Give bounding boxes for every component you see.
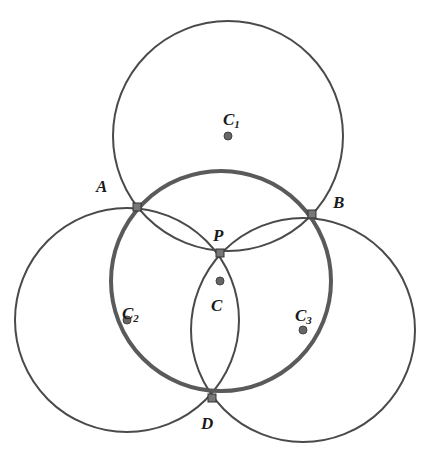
label-b: B (332, 193, 344, 212)
point-c (216, 277, 224, 285)
geometry-diagram: A B P D C C1 C2 C3 (0, 0, 430, 467)
point-c3 (299, 326, 307, 334)
point-a (133, 203, 141, 211)
label-c1: C1 (223, 110, 240, 130)
label-c3: C3 (295, 306, 312, 326)
label-p: P (212, 226, 224, 245)
label-d: D (200, 414, 213, 433)
point-p (216, 249, 224, 257)
point-d (208, 394, 216, 402)
label-c2: C2 (122, 304, 139, 324)
point-c1 (224, 132, 232, 140)
label-c: C (211, 296, 223, 315)
label-a: A (95, 177, 107, 196)
point-b (308, 210, 316, 218)
